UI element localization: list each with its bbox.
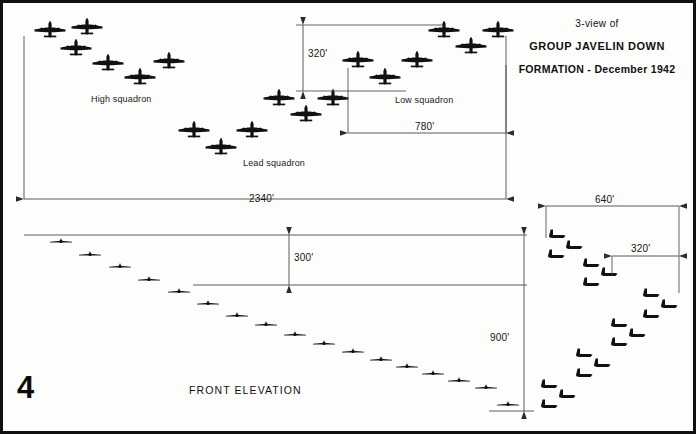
label-high-squadron: High squadron [91,94,152,104]
dimension-label-2340: 2340' [249,193,274,204]
title-main: GROUP JAVELIN DOWN [503,41,691,52]
figure-number: 4 [17,370,34,406]
title-date: FORMATION - December 1942 [503,64,691,75]
dimension-300 [24,235,527,285]
label-low-squadron: Low squadron [395,95,453,105]
dimension-label-780: 780' [415,121,434,132]
lead-squadron-group [179,89,349,154]
label-lead-squadron: Lead squadron [243,158,305,168]
dimension-label-300: 300' [294,252,313,263]
dimension-2340 [24,36,506,199]
low-squadron-group [343,21,514,84]
figure-frame: 3-view of GROUP JAVELIN DOWN FORMATION -… [0,0,696,434]
front-elevation-caption: FRONT ELEVATION [189,384,302,396]
high-squadron-group [35,18,185,84]
dimension-label-320-plan: 320' [308,48,327,59]
title-block: 3-view of GROUP JAVELIN DOWN FORMATION -… [503,19,691,75]
title-subtitle: 3-view of [503,19,691,29]
dimension-label-900: 900' [490,332,509,343]
dimension-640 [546,206,679,293]
front-elevation-group [50,239,519,406]
dimension-label-640: 640' [595,194,614,205]
dimension-label-320-side: 320' [631,243,650,254]
dimension-900 [489,235,534,411]
dimension-320-side [612,256,679,275]
